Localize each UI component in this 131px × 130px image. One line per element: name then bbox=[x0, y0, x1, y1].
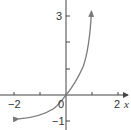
x-axis-label: x bbox=[123, 98, 129, 110]
x-tick-label-neg2: −2 bbox=[8, 98, 21, 110]
curve-line bbox=[19, 11, 92, 119]
x-tick-label-2: 2 bbox=[114, 98, 120, 110]
y-tick-label-3: 3 bbox=[56, 10, 62, 22]
y-tick-label-neg1: −1 bbox=[52, 115, 65, 127]
x-tick-label-zero: 0 bbox=[58, 98, 64, 110]
y-ticks bbox=[66, 16, 70, 121]
chart: −2 0 2 x 3 −1 bbox=[0, 0, 131, 130]
